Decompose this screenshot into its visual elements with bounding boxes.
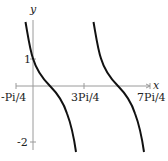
y-tick-label: -2	[17, 136, 28, 149]
chart-canvas: y x -Pi/4 3Pi/4 7Pi/4 1 -2	[0, 0, 168, 161]
x-tick-label: 3Pi/4	[71, 91, 100, 104]
x-tick-label: 7Pi/4	[137, 91, 166, 104]
x-tick-label: -Pi/4	[1, 91, 26, 104]
y-axis-label: y	[29, 3, 37, 16]
curve-branch-2	[94, 22, 145, 152]
y-tick-label: 1	[24, 53, 31, 66]
